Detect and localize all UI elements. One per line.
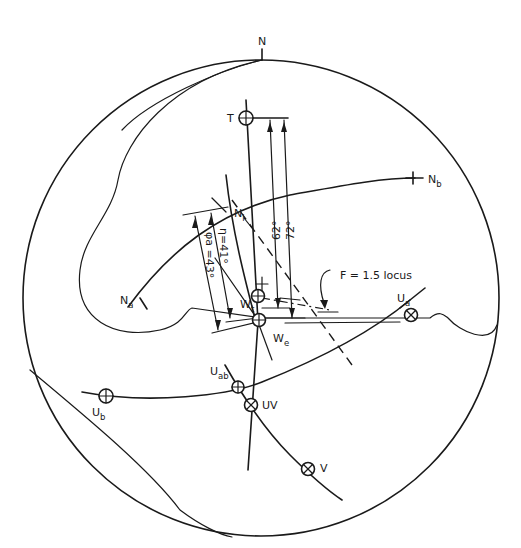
great-circle-na-nb [128,178,415,307]
arrow-72-head-bottom [289,308,295,318]
angle-72-label: 72° [284,221,297,241]
na-label: Na [120,294,133,310]
wt-tick [280,298,300,300]
point-uv [245,399,258,412]
nb-label: Nb [428,173,442,189]
line-we-uv [248,322,258,470]
we-horizontal-line [285,322,400,323]
ub-label: Ub [92,406,105,422]
locus-arrowhead [320,300,328,309]
arrow-62-head-top [267,122,273,132]
arrow-phi-head-top [192,218,198,228]
t-label: T [226,112,234,125]
point-wt [252,290,265,303]
arrow-62-head-bottom [275,298,281,308]
uv-label: UV [262,399,278,412]
point-v [302,463,315,476]
arrow-72-head-top [281,122,287,132]
arrow-62-line [270,120,278,308]
friction-circle-boundary [79,60,497,335]
stereonet-diagram: N Na Nb Ni 62° 72° φa =43° η=41° [0,0,521,548]
arrow-72-line [284,120,292,318]
point-we [253,314,266,327]
point-t [239,111,253,125]
great-circle-ub-ua [82,300,410,398]
arrow-eta-head-top [208,215,214,225]
we-label: We [273,332,289,348]
point-uab [232,381,244,393]
line-we-right [258,322,272,360]
point-ub [99,389,113,403]
north-label: N [258,35,266,48]
angle-62-label: 62° [270,221,283,241]
angle-phi-label: φa =43° [203,232,216,278]
locus-leader [321,270,330,303]
locus-label: F = 1.5 locus [340,269,412,282]
v-label: V [320,462,328,475]
na-reference-line [183,207,228,215]
arrow-phi-head-bottom [215,320,221,330]
point-ua [405,309,418,322]
angle-eta-label: η=41° [217,228,230,264]
na-tick [140,298,147,309]
